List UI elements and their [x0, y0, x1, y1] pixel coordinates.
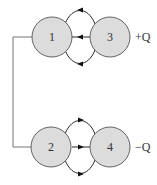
charge-label-top: +Q	[135, 30, 151, 44]
sphere-1-label: 1	[49, 30, 55, 44]
sphere-3-label: 3	[107, 30, 113, 44]
sphere-4: 4	[90, 127, 130, 167]
diagram: 1 3 2 4 +Q −Q	[0, 0, 157, 185]
sphere-3: 3	[90, 17, 130, 57]
charge-label-bottom: −Q	[135, 140, 151, 154]
sphere-2-label: 2	[48, 140, 54, 154]
sphere-4-label: 4	[107, 140, 113, 154]
sphere-2: 2	[31, 127, 71, 167]
arrowheads-bottom	[78, 118, 84, 177]
sphere-1: 1	[32, 17, 72, 57]
connecting-wire	[13, 37, 32, 147]
arrowheads-top	[77, 8, 83, 67]
